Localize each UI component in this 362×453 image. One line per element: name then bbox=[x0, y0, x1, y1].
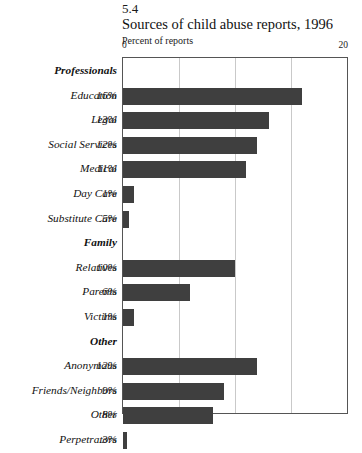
bar-track bbox=[123, 137, 347, 154]
bar bbox=[123, 309, 134, 326]
bar bbox=[123, 358, 257, 375]
bar-track bbox=[123, 161, 347, 178]
bar bbox=[123, 112, 269, 129]
bar bbox=[123, 284, 190, 301]
bar-row: Social Services12% bbox=[0, 134, 362, 159]
group-header-row: Other bbox=[0, 331, 362, 356]
category-value-label: 9% bbox=[86, 384, 117, 396]
bar-track bbox=[123, 112, 347, 129]
bar bbox=[123, 186, 134, 203]
category-value-label: .5% bbox=[86, 212, 117, 224]
bar-track bbox=[123, 358, 347, 375]
bar-track bbox=[123, 284, 347, 301]
category-value-label: 13% bbox=[86, 113, 117, 125]
figure-number: 5.4 bbox=[122, 2, 354, 16]
category-value-label: .3% bbox=[86, 433, 117, 445]
bar bbox=[123, 407, 213, 424]
category-value-label: 6% bbox=[86, 285, 117, 297]
bar bbox=[123, 88, 302, 105]
bar bbox=[123, 432, 127, 449]
bar bbox=[123, 137, 257, 154]
x-axis-tick-min: 0 bbox=[122, 40, 127, 50]
bar-track bbox=[123, 260, 347, 277]
bar-track bbox=[123, 432, 347, 449]
bar-row: Victims1% bbox=[0, 306, 362, 331]
category-value-label: 1% bbox=[86, 310, 117, 322]
category-value-label: 8% bbox=[86, 408, 117, 420]
category-value-label: 11% bbox=[86, 162, 117, 174]
bar-row: Friends/Neighbors9% bbox=[0, 380, 362, 405]
bar-track bbox=[123, 211, 347, 228]
group-header-row: Family bbox=[0, 232, 362, 257]
bar-row: Perpetrators.3% bbox=[0, 429, 362, 453]
group-label: Professionals bbox=[54, 64, 117, 76]
x-axis-tick-max: 20 bbox=[339, 40, 349, 50]
figure-title: Sources of child abuse reports, 1996 bbox=[122, 16, 354, 33]
bar bbox=[123, 260, 235, 277]
bar bbox=[123, 383, 224, 400]
group-label: Family bbox=[84, 236, 117, 248]
category-value-label: 12% bbox=[86, 359, 117, 371]
x-axis-tick-labels: 0 20 bbox=[122, 40, 348, 52]
bar-row: Day Care1% bbox=[0, 183, 362, 208]
group-label: Other bbox=[90, 335, 117, 347]
bar-row: Other8% bbox=[0, 404, 362, 429]
bar bbox=[123, 161, 246, 178]
category-value-label: 12% bbox=[86, 138, 117, 150]
bar-track bbox=[123, 383, 347, 400]
bar-track bbox=[123, 309, 347, 326]
bar-track bbox=[123, 407, 347, 424]
category-value-label: 10% bbox=[86, 261, 117, 273]
bar-row: Legal13% bbox=[0, 109, 362, 134]
bar-row: Medical11% bbox=[0, 158, 362, 183]
bar-track bbox=[123, 186, 347, 203]
bar-row: Parents6% bbox=[0, 281, 362, 306]
bar-track bbox=[123, 88, 347, 105]
bar-row: Substitute Care.5% bbox=[0, 208, 362, 233]
bar-row: Anonymous12% bbox=[0, 355, 362, 380]
group-header-row: Professionals bbox=[0, 60, 362, 85]
category-value-label: 16% bbox=[86, 89, 117, 101]
bar-row: Education16% bbox=[0, 85, 362, 110]
bar bbox=[123, 211, 129, 228]
category-value-label: 1% bbox=[86, 187, 117, 199]
bar-row: Relatives10% bbox=[0, 257, 362, 282]
